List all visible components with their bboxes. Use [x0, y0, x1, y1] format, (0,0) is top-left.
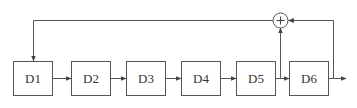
block-d1-label: D1	[25, 71, 41, 86]
adder	[273, 13, 288, 28]
block-d3-label: D3	[138, 71, 154, 86]
block-d1: D1	[14, 62, 53, 96]
block-d6-label: D6	[301, 71, 317, 86]
block-d5-label: D5	[248, 71, 264, 86]
block-d2-label: D2	[83, 71, 99, 86]
block-d3: D3	[127, 62, 166, 96]
block-d4-label: D4	[193, 71, 209, 86]
block-d6: D6	[290, 62, 329, 96]
block-d2: D2	[72, 62, 111, 96]
feedback-to-d1	[34, 21, 274, 62]
block-d4: D4	[182, 62, 221, 96]
block-d5: D5	[237, 62, 276, 96]
shift-register-diagram: D1 D2 D3 D4 D5 D6	[0, 0, 357, 108]
